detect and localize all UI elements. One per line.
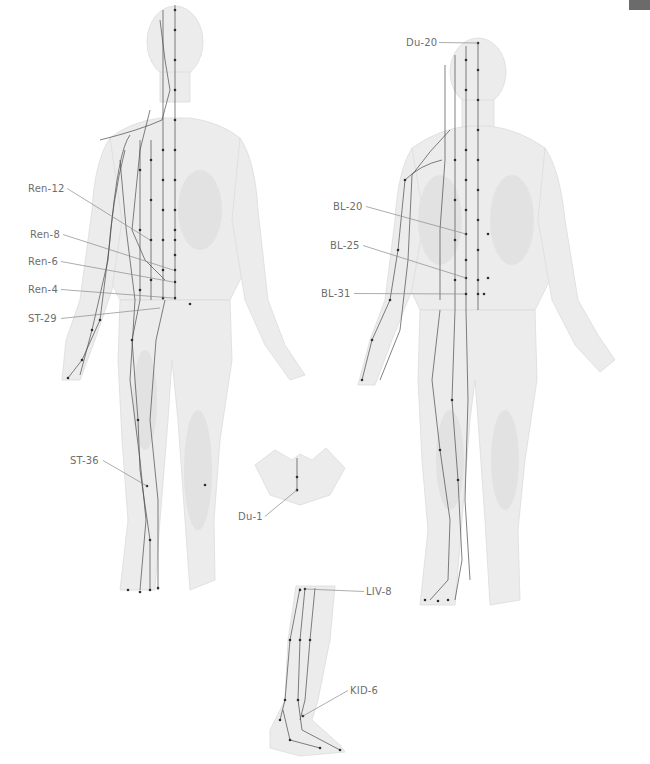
perineum-inset [255,448,345,505]
label-bl-20: BL-20 [333,201,363,212]
leader-line-bl-31 [354,294,465,295]
label-ren-8: Ren-8 [30,229,60,240]
acupuncture-diagram: Ren-12Ren-8Ren-6Ren-4ST-29ST-36Du-20BL-2… [0,0,650,764]
back-view-body [358,38,615,605]
medial-leg-inset [270,586,345,756]
label-du-1: Du-1 [238,511,263,522]
label-bl-31: BL-31 [321,288,351,299]
label-du-20: Du-20 [406,37,437,48]
label-st-29: ST-29 [28,313,57,324]
point-labels: Ren-12Ren-8Ren-6Ren-4ST-29ST-36Du-20BL-2… [28,37,478,716]
label-liv-8: LIV-8 [366,586,392,597]
front-view-body [62,5,305,593]
label-st-36: ST-36 [70,455,99,466]
label-ren-12: Ren-12 [28,183,65,194]
corner-tab [629,0,650,10]
label-bl-25: BL-25 [330,240,360,251]
leader-line-du-20 [439,43,478,44]
label-ren-6: Ren-6 [28,256,58,267]
label-kid-6: KID-6 [350,685,378,696]
label-ren-4: Ren-4 [28,284,58,295]
